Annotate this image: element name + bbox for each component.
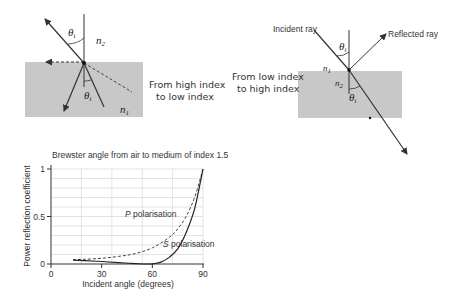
exit-point-right — [369, 117, 371, 119]
y-tick-label: 1 — [40, 164, 45, 174]
angle-arc-i-right — [337, 52, 349, 56]
p-polarisation-label: P polarisation — [125, 209, 177, 219]
reflected-ray-right — [349, 34, 386, 70]
incident-ray-label: Incident ray — [273, 24, 318, 34]
n2-label-left: n2 — [96, 34, 106, 48]
brewster-chart: Brewster angle from air to medium of ind… — [22, 150, 228, 289]
incidence-point-right — [347, 68, 351, 72]
theta-t-label-left: θt — [68, 26, 76, 40]
transmitted-ray-left — [45, 19, 84, 63]
x-axis-label: Incident angle (degrees) — [82, 279, 174, 289]
x-tick-label: 0 — [49, 269, 54, 279]
s-polarisation-label: S polarisation — [163, 239, 215, 249]
x-tick-label: 30 — [97, 269, 107, 279]
figure-canvas: θt n2 θi n1 From high index to low index… — [0, 0, 454, 305]
reflected-ray-label: Reflected ray — [388, 29, 439, 39]
x-tick-label: 90 — [198, 269, 208, 279]
incidence-point-left — [82, 61, 86, 65]
chart-title: Brewster angle from air to medium of ind… — [52, 150, 228, 160]
y-tick-label: 0.5 — [33, 212, 45, 222]
caption-left-line2: to low index — [156, 91, 214, 102]
diagram-low-to-high: Incident ray Reflected ray θi n1 n2 θt F… — [232, 24, 439, 154]
axis-ticks: 030609000.51 — [33, 164, 208, 279]
y-tick-label: 0 — [40, 259, 45, 269]
theta-i-label-right: θi — [339, 40, 346, 54]
angle-arc-t-left — [68, 38, 84, 44]
caption-left-line1: From high index — [149, 79, 226, 90]
caption-right-line2: to high index — [237, 83, 300, 94]
diagram-high-to-low: θt n2 θi n1 From high index to low index — [25, 14, 226, 117]
caption-right-line1: From low index — [232, 71, 304, 82]
x-tick-label: 60 — [148, 269, 158, 279]
y-axis-label: Power reflection coefficient — [22, 165, 32, 267]
